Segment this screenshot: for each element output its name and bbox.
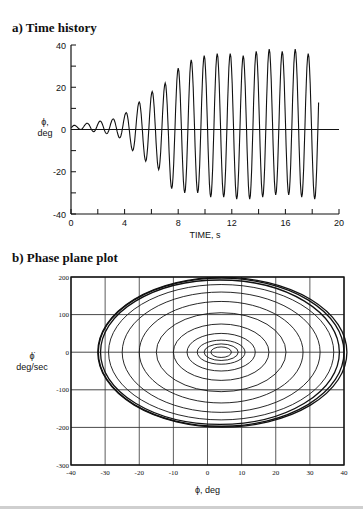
- x-tick-label: -10: [169, 469, 179, 477]
- x-axis-label: ϕ, deg: [195, 485, 220, 495]
- y-axis-label: ϕ̇: [29, 351, 35, 361]
- y-tick-label: 200: [59, 274, 70, 282]
- x-tick-label: 20: [272, 469, 280, 477]
- y-tick-label: 0: [66, 349, 70, 357]
- y-tick-label: -100: [56, 386, 69, 394]
- x-tick-label: 30: [306, 469, 314, 477]
- x-tick-label: 40: [341, 469, 349, 477]
- x-tick-label: -40: [66, 469, 76, 477]
- page-divider: [0, 506, 363, 509]
- x-tick-label: -30: [100, 469, 110, 477]
- x-tick-label: 10: [238, 469, 246, 477]
- y-tick-label: 100: [59, 311, 70, 319]
- x-tick-label: -20: [135, 469, 145, 477]
- x-tick-label: 0: [206, 469, 210, 477]
- y-tick-label: -200: [56, 424, 69, 432]
- y-tick-label: -300: [56, 462, 69, 470]
- phase-plane-chart: -40-30-20-10010203040-300-200-1000100200…: [0, 0, 363, 511]
- y-axis-label-unit: deg/sec: [16, 362, 48, 372]
